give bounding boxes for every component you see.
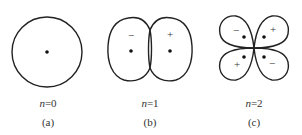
- caption-c: (c): [224, 116, 284, 128]
- center-dot: [45, 50, 49, 54]
- n-value-c: =2: [251, 97, 263, 109]
- panel-b-diagram: [108, 18, 192, 81]
- right-dot: [168, 49, 172, 53]
- sign-c-tr: +: [243, 23, 302, 35]
- panel-a-diagram: [12, 17, 82, 87]
- sign-b-right: +: [140, 28, 200, 40]
- n-label-b: n=1: [120, 97, 180, 109]
- n-label-c: n=2: [224, 97, 284, 109]
- left-lobe: [108, 18, 152, 81]
- n-value-b: =1: [147, 97, 159, 109]
- sign-c-br: −: [242, 57, 302, 69]
- n-label-a: n=0: [18, 97, 78, 109]
- caption-a: (a): [18, 116, 78, 128]
- n-value-a: =0: [45, 97, 57, 109]
- caption-b: (b): [120, 116, 180, 128]
- right-lobe: [149, 18, 193, 81]
- left-dot: [129, 49, 133, 53]
